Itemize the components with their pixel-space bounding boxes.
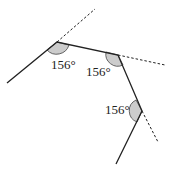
angle-label-b: 156° [86, 65, 111, 78]
angle-arc-c [129, 100, 142, 122]
angle-label-a: 156° [51, 58, 76, 71]
extension-b [118, 55, 165, 65]
angle-label-c: 156° [105, 103, 130, 116]
extension-c [142, 111, 158, 142]
polygon-diagram [0, 0, 170, 169]
extension-a [57, 9, 95, 42]
diagram: 156° 156° 156° [0, 0, 170, 169]
